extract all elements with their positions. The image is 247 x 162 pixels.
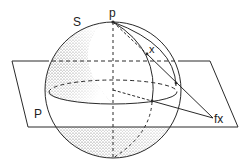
diagram-drawing	[0, 0, 247, 162]
meridian-equator-point	[151, 100, 154, 103]
label-sphere-S: S	[73, 16, 81, 28]
label-pole-p: p	[109, 7, 116, 19]
label-projection-fx: fx	[214, 113, 223, 125]
x-point	[146, 53, 149, 56]
equator-intersection	[175, 82, 178, 85]
pole-point	[111, 20, 114, 23]
label-point-x: x	[149, 44, 155, 55]
stereographic-projection-diagram: S p x P fx	[0, 0, 247, 162]
plane-P	[12, 61, 238, 127]
label-plane-P: P	[34, 108, 42, 120]
